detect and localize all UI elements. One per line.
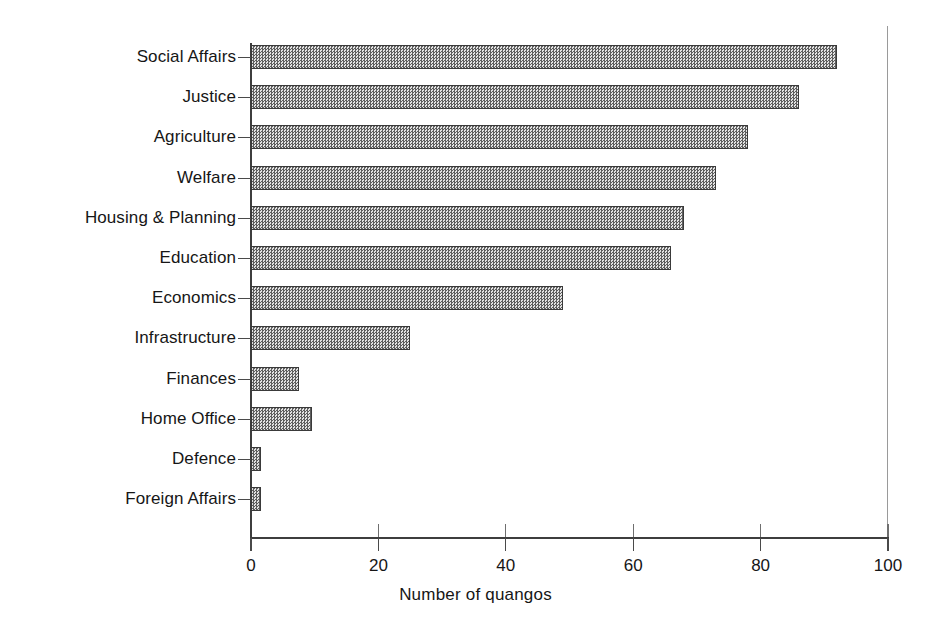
category-label-9: Finances (0, 370, 236, 388)
category-label-11: Defence (0, 450, 236, 468)
category-label-text: Education (0, 249, 236, 267)
y-axis-tick-6 (238, 258, 251, 259)
category-label-text: Finances (0, 370, 236, 388)
category-label-text: Foreign Affairs (0, 490, 236, 508)
x-tick-80 (760, 538, 761, 551)
category-label-text: Social Affairs (0, 48, 236, 66)
y-axis-tick-3 (238, 137, 251, 138)
x-tick-60 (633, 538, 634, 551)
category-label-3: Agriculture (0, 128, 236, 146)
bar-2 (251, 85, 799, 109)
category-label-8: Infrastructure (0, 329, 236, 347)
category-label-text: Defence (0, 450, 236, 468)
x-tick-100 (887, 538, 888, 551)
bar-8 (251, 326, 410, 350)
x-tick-label-20: 20 (348, 556, 408, 576)
x-tick-label-0: 0 (221, 556, 281, 576)
bar-7 (251, 286, 563, 310)
category-label-10: Home Office (0, 410, 236, 428)
bar-12 (251, 487, 261, 511)
y-axis-tick-8 (238, 338, 251, 339)
x-axis-title-text: Number of quangos (379, 585, 552, 604)
category-label-12: Foreign Affairs (0, 490, 236, 508)
bar-4 (251, 166, 716, 190)
category-label-text: Agriculture (0, 128, 236, 146)
y-axis-tick-4 (238, 178, 251, 179)
category-label-text: Home Office (0, 410, 236, 428)
x-tick-label-100: 100 (858, 556, 918, 576)
y-axis-tick-5 (238, 218, 251, 219)
bar-1 (251, 45, 837, 69)
plot-right-rule (887, 26, 888, 537)
y-axis-tick-2 (238, 97, 251, 98)
bar-10 (251, 407, 312, 431)
x-tick-inner-60 (633, 524, 634, 537)
x-tick-40 (505, 538, 506, 551)
category-label-text: Infrastructure (0, 329, 236, 347)
x-tick-inner-20 (378, 524, 379, 537)
category-label-text: Housing & Planning (0, 209, 236, 227)
y-axis-tick-7 (238, 298, 251, 299)
category-label-2: Justice (0, 88, 236, 106)
bar-11 (251, 447, 261, 471)
y-axis-tick-10 (238, 419, 251, 420)
y-axis-tick-9 (238, 379, 251, 380)
x-axis-line (251, 537, 889, 539)
y-axis-tick-1 (238, 57, 251, 58)
y-axis-tick-11 (238, 459, 251, 460)
x-axis-title: Number of quangos (0, 585, 931, 605)
category-label-1: Social Affairs (0, 48, 236, 66)
bar-9 (251, 367, 299, 391)
bar-5 (251, 206, 684, 230)
bar-chart: Social AffairsJusticeAgricultureWelfareH… (0, 0, 931, 636)
category-label-5: Housing & Planning (0, 209, 236, 227)
bar-6 (251, 246, 671, 270)
category-label-4: Welfare (0, 169, 236, 187)
category-label-text: Justice (0, 88, 236, 106)
x-tick-label-80: 80 (731, 556, 791, 576)
category-label-text: Economics (0, 289, 236, 307)
x-tick-inner-80 (760, 524, 761, 537)
x-tick-inner-40 (505, 524, 506, 537)
category-label-7: Economics (0, 289, 236, 307)
bar-3 (251, 125, 748, 149)
x-tick-0 (250, 538, 251, 551)
category-label-6: Education (0, 249, 236, 267)
x-tick-inner-100 (887, 524, 888, 537)
x-tick-label-60: 60 (603, 556, 663, 576)
x-tick-label-40: 40 (476, 556, 536, 576)
y-axis-tick-12 (238, 499, 251, 500)
x-tick-20 (378, 538, 379, 551)
category-label-text: Welfare (0, 169, 236, 187)
